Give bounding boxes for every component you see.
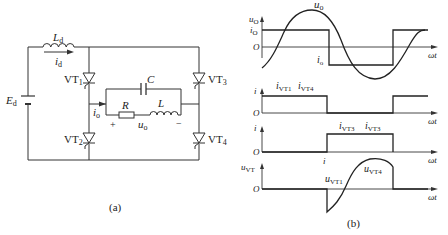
- panel3-y-label: i: [254, 123, 257, 133]
- thyristor-vt2-label: VT2: [64, 133, 83, 147]
- curve-ivt3-label-2: iVT3: [365, 120, 381, 133]
- caption-b: (b): [347, 217, 360, 230]
- curve-neg-io-label: io: [317, 54, 324, 67]
- panel-uo-io: uO iO O uo io ωt: [249, 0, 438, 79]
- resistor-symbol: [119, 112, 134, 118]
- panel3-x-label: ωt: [428, 155, 437, 165]
- capacitor-label: C: [147, 73, 155, 85]
- panel-ivt3: i O iVT3 iVT3 i ωt: [253, 120, 438, 166]
- axis-arrow-icon: [260, 126, 264, 132]
- curve-uvt4-label: uVT4: [364, 163, 382, 176]
- axis-arrow-icon: [260, 163, 264, 169]
- dc-current-label: id: [55, 55, 62, 69]
- panel3-marker-label: i: [323, 156, 326, 166]
- curve-ivt1-label: iVT1: [276, 80, 292, 93]
- dc-inductor-label: Ld: [52, 31, 63, 45]
- panel2-x-label: ωt: [428, 116, 437, 126]
- current-arrow-icon: [67, 50, 74, 55]
- panel1-io-label: iO: [250, 25, 258, 37]
- thyristor-vt3-label: VT3: [208, 73, 227, 87]
- current-arrow-icon: [99, 102, 106, 107]
- axis-arrow-icon: [431, 187, 438, 191]
- circuit-diagram: Ld id Ed VT1 VT2 VT3 VT4 C R L io + uo −…: [5, 31, 227, 214]
- output-voltage-plus: +: [110, 119, 116, 130]
- thyristor-vt1-label: VT1: [64, 73, 83, 87]
- curve-ivt4-label: iVT4: [298, 80, 314, 93]
- axis-arrow-icon: [431, 150, 438, 154]
- battery-symbol: [21, 96, 35, 104]
- panel-ivt1-ivt4: i O iVT1 iVT4 ωt: [253, 80, 438, 126]
- panel1-x-label: ωt: [428, 50, 437, 60]
- curve-ivt3-label-1: iVT3: [339, 120, 355, 133]
- figure: Ld id Ed VT1 VT2 VT3 VT4 C R L io + uo −…: [0, 0, 448, 235]
- axis-arrow-icon: [431, 45, 438, 49]
- output-current-label: io: [93, 106, 100, 120]
- panel1-origin-label: O: [253, 42, 260, 52]
- panel2-y-label: i: [254, 86, 257, 96]
- output-voltage-minus: −: [176, 118, 182, 129]
- panel3-origin-label: O: [253, 147, 260, 157]
- curve-uvt1-label: uVT1: [325, 173, 343, 186]
- axis-arrow-icon: [260, 16, 264, 22]
- panel2-origin-label: O: [253, 108, 260, 118]
- thyristor-vt4-label: VT4: [208, 133, 227, 147]
- panel4-x-label: ωt: [428, 192, 437, 202]
- axis-arrow-icon: [260, 88, 264, 94]
- panel-uvt: uVT O uVT1 uVT4 ωt: [241, 159, 438, 212]
- waveform-diagram: uO iO O uo io ωt i O iVT1 iVT4 ωt: [241, 0, 438, 230]
- panel4-origin-label: O: [253, 184, 260, 194]
- output-voltage-label: uo: [138, 118, 148, 132]
- load-inductor-label: L: [157, 97, 164, 109]
- caption-a: (a): [109, 201, 122, 214]
- source-label: Ed: [5, 94, 17, 108]
- panel4-y-label: uVT: [241, 162, 256, 174]
- load-inductor-symbol: [150, 112, 178, 116]
- resistor-label: R: [121, 99, 129, 111]
- axis-arrow-icon: [431, 111, 438, 115]
